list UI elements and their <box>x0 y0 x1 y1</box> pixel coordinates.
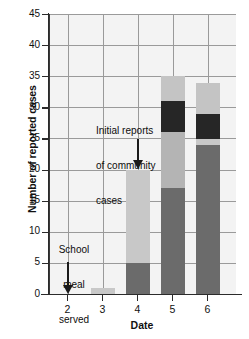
bar-segment-2 <box>196 139 220 145</box>
y-tick-label-15: 15 <box>16 194 40 205</box>
x-tick-label-4: 4 <box>128 303 148 315</box>
y-tick-label-45: 45 <box>16 8 40 19</box>
bar-segment-4 <box>161 76 185 101</box>
plot-area: School meal served Initial reports of co… <box>49 14 236 294</box>
x-tick-label-5: 5 <box>163 303 183 315</box>
annotation-line: School <box>42 244 106 256</box>
bar-segment-3 <box>196 114 220 139</box>
x-axis-line <box>41 294 242 295</box>
bar-segment-1 <box>126 263 150 294</box>
annotation-initial-reports-arrow <box>133 139 144 169</box>
y-tick-mark-30 <box>42 107 49 108</box>
y-tick-label-5: 5 <box>16 256 40 267</box>
chart-figure: Number of reported cases <box>0 0 249 339</box>
annotation-line: Initial reports <box>96 125 191 137</box>
y-tick-label-10: 10 <box>16 225 40 236</box>
annotation-line: meal <box>42 279 106 291</box>
y-tick-mark-0 <box>42 294 49 295</box>
y-tick-label-35: 35 <box>16 70 40 81</box>
y-axis-line <box>48 13 49 295</box>
y-tick-mark-45 <box>42 14 49 15</box>
y-tick-label-25: 25 <box>16 132 40 143</box>
bar-segment-4 <box>196 83 220 114</box>
bar-segment-1 <box>196 145 220 294</box>
x-tick-mark-2 <box>67 295 68 301</box>
x-tick-label-3: 3 <box>93 303 113 315</box>
y-tick-label-30: 30 <box>16 101 40 112</box>
y-tick-mark-40 <box>42 45 49 46</box>
y-tick-label-0: 0 <box>16 288 40 299</box>
y-axis-title: Number of reported cases <box>26 54 38 244</box>
annotation-school-meal-arrow <box>63 262 74 294</box>
y-tick-label-40: 40 <box>16 39 40 50</box>
x-tick-mark-5 <box>172 295 173 301</box>
x-tick-mark-6 <box>207 295 208 301</box>
y-tick-label-20: 20 <box>16 163 40 174</box>
x-tick-label-6: 6 <box>198 303 218 315</box>
y-tick-mark-35 <box>42 76 49 77</box>
y-tick-mark-10 <box>42 232 49 233</box>
y-tick-mark-5 <box>42 263 49 264</box>
x-tick-mark-4 <box>137 295 138 301</box>
x-tick-label-2: 2 <box>58 303 78 315</box>
x-tick-mark-3 <box>102 295 103 301</box>
y-tick-mark-25 <box>42 138 49 139</box>
y-tick-mark-15 <box>42 201 49 202</box>
y-tick-mark-20 <box>42 170 49 171</box>
bar-date-6[interactable] <box>196 82 220 294</box>
x-axis-title: Date <box>49 319 235 331</box>
annotation-line: cases <box>96 195 191 207</box>
